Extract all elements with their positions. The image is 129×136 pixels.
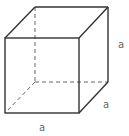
label-width: a: [39, 122, 45, 133]
top-right-depth-edge: [79, 7, 108, 38]
hidden-edge-depth: [5, 82, 35, 113]
top-left-depth-edge: [5, 7, 35, 38]
visible-edges: [5, 7, 108, 113]
label-depth: a: [103, 99, 109, 110]
label-height: a: [118, 39, 124, 50]
cube-diagram: a a a: [0, 0, 129, 136]
front-face: [5, 38, 79, 113]
